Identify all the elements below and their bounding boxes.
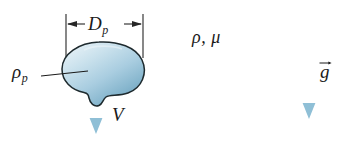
gravity-symbol-wrap: g	[320, 62, 330, 81]
gravity-arrowhead	[303, 103, 316, 119]
particle-density-label: ρp	[12, 62, 28, 84]
particle-density-symbol: ρ	[12, 61, 21, 82]
particle-diameter-symbol: D	[88, 13, 102, 34]
gravity-vector-label: g	[320, 62, 330, 81]
dimension-arrowhead-left	[67, 21, 77, 27]
dimension-arrowhead-right	[132, 21, 142, 27]
particle-density-subscript: p	[22, 71, 28, 85]
velocity-arrowhead	[90, 118, 103, 134]
figure-canvas	[0, 0, 349, 166]
settling-velocity-label: V	[112, 105, 124, 124]
particle-diameter-subscript: p	[102, 23, 108, 37]
vector-arrow-icon	[319, 59, 332, 65]
particle-blob	[62, 42, 144, 106]
fluid-properties-label: ρ, μ	[192, 28, 221, 46]
particle-settling-figure: Dp ρp V ρ, μ g	[0, 0, 349, 166]
particle-diameter-label: Dp	[88, 14, 108, 36]
